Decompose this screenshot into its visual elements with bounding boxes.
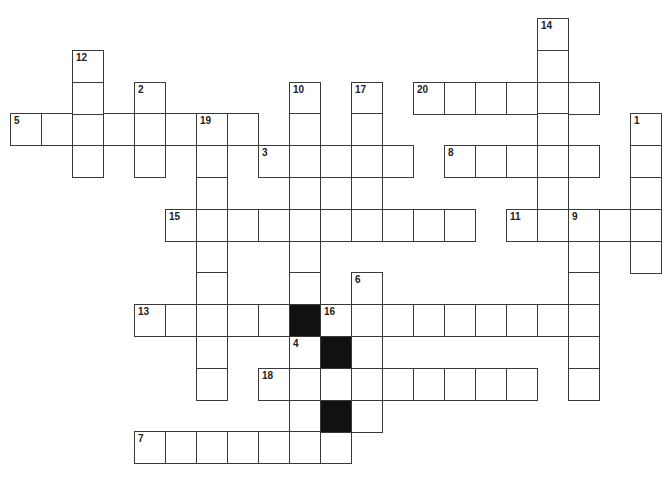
crossword-cell[interactable] — [382, 304, 414, 337]
crossword-cell[interactable] — [227, 304, 259, 337]
crossword-cell[interactable] — [289, 241, 321, 274]
crossword-cell[interactable] — [444, 304, 476, 337]
crossword-cell[interactable] — [475, 368, 507, 401]
crossword-cell[interactable]: 17 — [351, 82, 383, 115]
crossword-cell[interactable] — [72, 113, 104, 146]
crossword-cell[interactable] — [537, 145, 569, 178]
crossword-cell[interactable] — [537, 209, 569, 242]
crossword-cell[interactable] — [227, 209, 259, 242]
crossword-cell[interactable] — [537, 50, 569, 83]
crossword-cell[interactable]: 8 — [444, 145, 476, 178]
crossword-cell[interactable] — [568, 368, 600, 401]
crossword-cell[interactable] — [289, 145, 321, 178]
crossword-cell[interactable] — [196, 241, 228, 274]
crossword-cell[interactable] — [320, 145, 352, 178]
crossword-cell[interactable] — [506, 145, 538, 178]
crossword-cell[interactable] — [568, 241, 600, 274]
crossword-cell[interactable] — [537, 177, 569, 210]
crossword-cell[interactable] — [506, 368, 538, 401]
crossword-cell[interactable] — [351, 113, 383, 146]
crossword-cell[interactable] — [382, 368, 414, 401]
crossword-cell[interactable]: 4 — [289, 336, 321, 369]
crossword-cell[interactable] — [413, 209, 445, 242]
crossword-cell[interactable] — [134, 145, 166, 178]
crossword-cell[interactable]: 15 — [165, 209, 197, 242]
crossword-cell[interactable]: 5 — [10, 113, 42, 146]
crossword-cell[interactable] — [289, 400, 321, 433]
crossword-cell[interactable] — [630, 209, 662, 242]
crossword-cell[interactable] — [258, 431, 290, 464]
crossword-cell[interactable]: 3 — [258, 145, 290, 178]
crossword-cell[interactable] — [475, 145, 507, 178]
crossword-cell[interactable] — [351, 368, 383, 401]
crossword-cell[interactable] — [382, 145, 414, 178]
crossword-cell[interactable] — [103, 113, 135, 146]
crossword-cell[interactable] — [413, 304, 445, 337]
crossword-cell[interactable]: 2 — [134, 82, 166, 115]
crossword-cell[interactable] — [413, 368, 445, 401]
crossword-cell[interactable] — [258, 304, 290, 337]
crossword-cell[interactable]: 10 — [289, 82, 321, 115]
crossword-cell[interactable] — [320, 368, 352, 401]
crossword-cell[interactable] — [72, 145, 104, 178]
crossword-cell[interactable] — [134, 113, 166, 146]
crossword-cell[interactable] — [444, 209, 476, 242]
crossword-cell[interactable] — [537, 113, 569, 146]
crossword-cell[interactable] — [258, 209, 290, 242]
crossword-cell[interactable] — [165, 304, 197, 337]
crossword-cell[interactable] — [41, 113, 73, 146]
crossword-cell[interactable]: 11 — [506, 209, 538, 242]
crossword-cell[interactable]: 20 — [413, 82, 445, 115]
crossword-cell[interactable] — [165, 431, 197, 464]
crossword-cell[interactable] — [444, 368, 476, 401]
crossword-cell[interactable] — [568, 145, 600, 178]
crossword-cell[interactable] — [289, 209, 321, 242]
crossword-cell[interactable]: 9 — [568, 209, 600, 242]
crossword-cell[interactable] — [568, 304, 600, 337]
crossword-cell[interactable] — [568, 272, 600, 305]
crossword-cell[interactable] — [568, 82, 600, 115]
crossword-cell[interactable]: 1 — [630, 113, 662, 146]
crossword-cell[interactable] — [506, 82, 538, 115]
crossword-cell[interactable] — [196, 145, 228, 178]
crossword-cell[interactable] — [289, 431, 321, 464]
crossword-cell[interactable]: 19 — [196, 113, 228, 146]
crossword-cell[interactable] — [227, 113, 259, 146]
crossword-cell[interactable] — [289, 177, 321, 210]
crossword-cell[interactable] — [351, 177, 383, 210]
crossword-cell[interactable]: 12 — [72, 50, 104, 83]
crossword-cell[interactable] — [196, 368, 228, 401]
crossword-cell[interactable] — [196, 336, 228, 369]
crossword-cell[interactable]: 18 — [258, 368, 290, 401]
crossword-cell[interactable] — [320, 431, 352, 464]
crossword-cell[interactable] — [351, 400, 383, 433]
crossword-cell[interactable]: 6 — [351, 272, 383, 305]
crossword-cell[interactable] — [227, 431, 259, 464]
crossword-cell[interactable] — [351, 209, 383, 242]
crossword-cell[interactable] — [444, 82, 476, 115]
crossword-cell[interactable]: 7 — [134, 431, 166, 464]
crossword-cell[interactable] — [289, 272, 321, 305]
crossword-cell[interactable]: 13 — [134, 304, 166, 337]
crossword-cell[interactable]: 14 — [537, 18, 569, 51]
crossword-cell[interactable] — [289, 113, 321, 146]
crossword-cell[interactable] — [537, 82, 569, 115]
crossword-cell[interactable] — [630, 177, 662, 210]
crossword-cell[interactable] — [599, 209, 631, 242]
crossword-cell[interactable] — [506, 304, 538, 337]
crossword-cell[interactable] — [196, 431, 228, 464]
crossword-cell[interactable] — [165, 113, 197, 146]
crossword-cell[interactable] — [630, 241, 662, 274]
crossword-cell[interactable] — [196, 209, 228, 242]
crossword-cell[interactable] — [568, 336, 600, 369]
crossword-cell[interactable] — [196, 272, 228, 305]
crossword-cell[interactable] — [320, 209, 352, 242]
crossword-cell[interactable] — [289, 368, 321, 401]
crossword-cell[interactable] — [351, 304, 383, 337]
crossword-cell[interactable] — [351, 336, 383, 369]
crossword-cell[interactable] — [196, 304, 228, 337]
crossword-cell[interactable] — [351, 145, 383, 178]
crossword-cell[interactable] — [537, 304, 569, 337]
crossword-cell[interactable] — [196, 177, 228, 210]
crossword-cell[interactable] — [630, 145, 662, 178]
